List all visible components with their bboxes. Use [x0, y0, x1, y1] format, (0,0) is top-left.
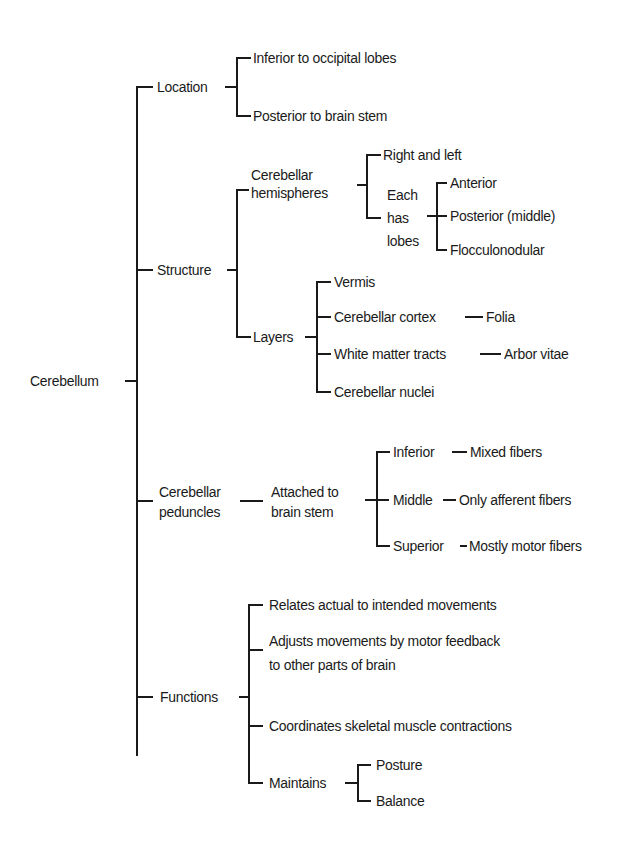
- layer-cerebellar-cortex: Cerebellar cortex: [334, 308, 436, 326]
- function-coordinates-contractions: Coordinates skeletal muscle contractions: [269, 717, 512, 735]
- node-each-has-lobes: Each has lobes: [387, 183, 419, 252]
- layer-white-matter-tracts: White matter tracts: [334, 345, 446, 363]
- node-attached-to-brain-stem: Attached to brain stem: [271, 482, 339, 522]
- location-item-inferior: Inferior to occipital lobes: [253, 49, 396, 67]
- layer-white-arbor-vitae: Arbor vitae: [504, 345, 568, 363]
- peduncle-middle: Middle: [393, 491, 432, 509]
- node-functions: Functions: [160, 688, 218, 706]
- layer-cortex-folia: Folia: [486, 308, 515, 326]
- node-cerebellar-hemispheres: Cerebellar hemispheres: [251, 166, 328, 202]
- root-node-cerebellum: Cerebellum: [30, 372, 99, 390]
- peduncle-inferior-desc: Mixed fibers: [470, 443, 542, 461]
- node-cerebellar-peduncles: Cerebellar peduncles: [159, 482, 221, 522]
- function-relates-movements: Relates actual to intended movements: [269, 596, 497, 614]
- lobe-anterior: Anterior: [450, 174, 497, 192]
- hemispheres-right-and-left: Right and left: [383, 146, 461, 164]
- layer-cerebellar-nuclei: Cerebellar nuclei: [334, 383, 434, 401]
- peduncle-middle-desc: Only afferent fibers: [459, 491, 571, 509]
- peduncle-superior: Superior: [393, 537, 444, 555]
- layer-vermis: Vermis: [334, 273, 375, 291]
- peduncle-superior-desc: Mostly motor fibers: [469, 537, 582, 555]
- maintains-posture: Posture: [376, 756, 422, 774]
- cerebellum-concept-map: Cerebellum Location Inferior to occipita…: [0, 0, 642, 853]
- location-item-posterior: Posterior to brain stem: [253, 107, 387, 125]
- peduncle-inferior: Inferior: [393, 443, 434, 461]
- maintains-balance: Balance: [376, 792, 425, 810]
- lobe-flocculonodular: Flocculonodular: [450, 241, 544, 259]
- node-structure: Structure: [157, 261, 211, 279]
- node-location: Location: [157, 78, 208, 96]
- lobe-posterior-middle: Posterior (middle): [450, 207, 555, 225]
- node-maintains: Maintains: [269, 774, 326, 792]
- function-adjusts-movements: Adjusts movements by motor feedback to o…: [269, 629, 500, 677]
- node-layers: Layers: [253, 328, 293, 346]
